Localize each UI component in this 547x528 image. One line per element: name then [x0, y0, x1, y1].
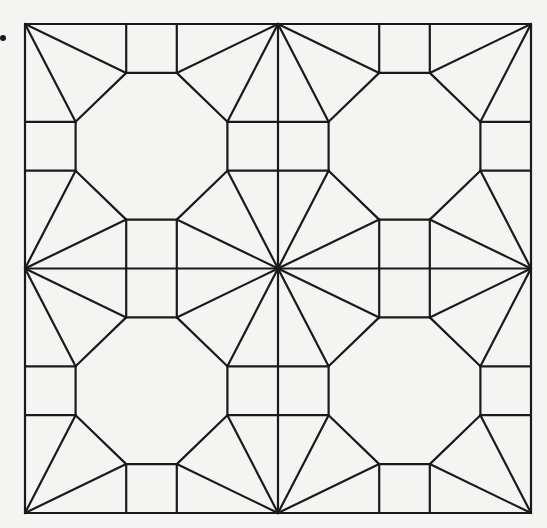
corner-ray [480, 415, 531, 513]
geometric-tiling-figure [0, 0, 547, 528]
corner-ray [430, 220, 531, 269]
octagon-edge [329, 73, 380, 122]
octagon-edge [329, 415, 380, 464]
corner-ray [278, 269, 329, 367]
octagon-edge [430, 73, 481, 122]
octagon-edge [76, 415, 127, 464]
corner-ray [25, 269, 126, 318]
octagon-edge [76, 317, 127, 366]
octagon-edge [177, 171, 228, 220]
corner-ray [25, 24, 76, 122]
octagon-edge [329, 171, 380, 220]
corner-ray [278, 415, 329, 513]
corner-ray [480, 269, 531, 367]
corner-ray [480, 24, 531, 122]
corner-ray [278, 24, 379, 73]
corner-ray [278, 269, 379, 318]
corner-ray [25, 464, 126, 513]
corner-ray [430, 24, 531, 73]
corner-ray [25, 220, 126, 269]
octagon-edge [177, 73, 228, 122]
corner-ray [25, 24, 126, 73]
corner-ray [177, 220, 278, 269]
corner-ray [177, 269, 278, 318]
octagon-edge [177, 415, 228, 464]
corner-ray [430, 269, 531, 318]
corner-ray [278, 24, 329, 122]
corner-ray [227, 415, 278, 513]
corner-ray [480, 171, 531, 269]
corner-ray [278, 220, 379, 269]
corner-ray [430, 464, 531, 513]
corner-ray [25, 269, 76, 367]
corner-ray [278, 171, 329, 269]
octagon-edge [430, 415, 481, 464]
corner-ray [227, 171, 278, 269]
corner-ray [227, 269, 278, 367]
corner-ray [25, 171, 76, 269]
octagon-edge [76, 73, 127, 122]
corner-ray [278, 464, 379, 513]
corner-ray [227, 24, 278, 122]
octagon-edge [329, 317, 380, 366]
octagon-edge [430, 317, 481, 366]
corner-ray [177, 464, 278, 513]
figure-lines [25, 24, 531, 513]
octagon-edge [177, 317, 228, 366]
corner-ray [25, 415, 76, 513]
octagon-edge [76, 171, 127, 220]
corner-ray [177, 24, 278, 73]
octagon-edge [430, 171, 481, 220]
